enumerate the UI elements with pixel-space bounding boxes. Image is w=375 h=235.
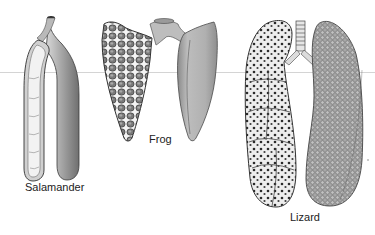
lizard-trachea (296, 21, 305, 51)
frog-right-lung (177, 22, 217, 141)
frog-left-lung (102, 22, 152, 141)
frog-trachea-opening (154, 19, 174, 24)
lizard-left-lung (245, 21, 296, 208)
salamander-lungs (24, 16, 79, 181)
frog-lungs (102, 19, 217, 142)
speck (367, 159, 369, 161)
lizard-right-lung (306, 21, 363, 206)
salamander-label: Salamander (25, 181, 84, 193)
salamander-right-lung (46, 18, 79, 180)
lizard-label: Lizard (290, 211, 320, 223)
lung-comparison-figure: Salamander Frog Lizard (0, 0, 375, 235)
frog-label: Frog (149, 133, 172, 145)
lizard-lungs (245, 21, 363, 208)
illustration-canvas (0, 0, 375, 235)
